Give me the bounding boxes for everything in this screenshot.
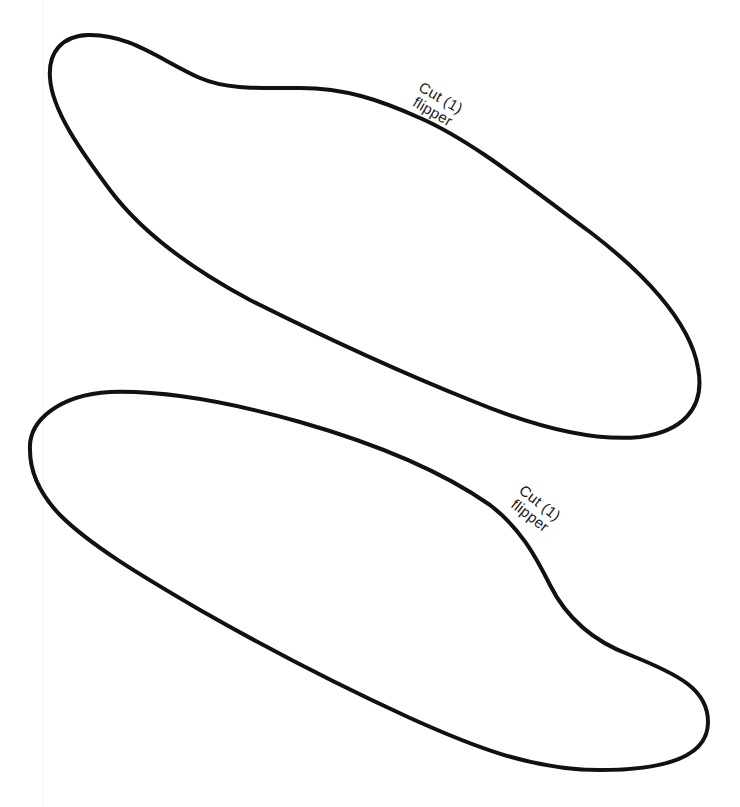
flipper-outline-top bbox=[50, 35, 700, 438]
flipper-outlines bbox=[0, 0, 740, 807]
template-page: Cut (1) flipper Cut (1) flipper bbox=[0, 0, 740, 807]
flipper-outline-bottom bbox=[30, 392, 708, 770]
